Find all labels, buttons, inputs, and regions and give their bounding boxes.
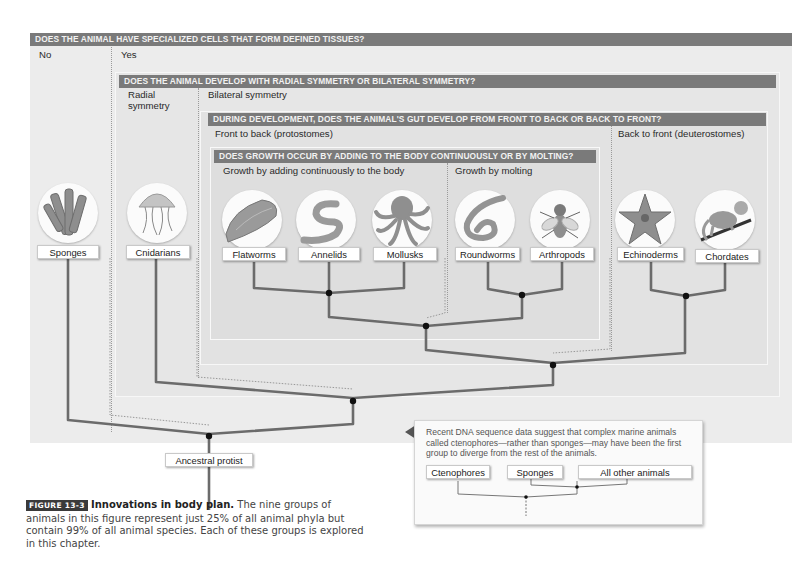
group-label-flatworms: Flatworms: [222, 247, 286, 261]
monkey-icon: [695, 190, 755, 250]
ctenophore-callout: Recent DNA sequence data suggest that co…: [414, 420, 703, 525]
jellyfish-icon: [127, 183, 187, 243]
node-ecdysozoa: [519, 292, 525, 298]
group-label-chordates: Chordates: [695, 249, 759, 263]
callout-label-all-other-animals: All other animals: [578, 465, 692, 479]
sponge-icon: [38, 183, 98, 243]
group-label-sponges: Sponges: [37, 245, 99, 259]
node-deuterostomes: [683, 293, 689, 299]
octopus-icon: [372, 190, 432, 250]
figure-caption: FIGURE 13-3 Innovations in body plan. Th…: [26, 499, 366, 550]
caption-title: Innovations in body plan.: [91, 499, 234, 510]
root-label: Ancestral protist: [165, 453, 253, 467]
node-eumetazoa: [350, 398, 356, 404]
group-label-roundworms: Roundworms: [455, 247, 520, 261]
flatworm-icon: [222, 190, 282, 250]
annelid-worm-icon: [296, 190, 356, 250]
group-label-arthropods: Arthropods: [530, 247, 594, 261]
group-label-mollusks: Mollusks: [373, 247, 437, 261]
figure-number-badge: FIGURE 13-3: [26, 500, 88, 511]
node-protostomes: [423, 323, 429, 329]
roundworm-icon: [455, 190, 515, 250]
starfish-icon: [615, 190, 675, 250]
group-label-echinoderms: Echinoderms: [617, 247, 684, 261]
callout-label-ctenophores: Ctenophores: [426, 465, 490, 479]
callout-label-sponges: Sponges: [507, 465, 563, 479]
node-bilateria: [550, 362, 556, 368]
node-animals: [206, 433, 212, 439]
group-label-cnidarians: Cnidarians: [126, 245, 190, 259]
node-spiralia: [326, 290, 332, 296]
group-label-annelids: Annelids: [298, 247, 360, 261]
fly-icon: [530, 190, 590, 250]
